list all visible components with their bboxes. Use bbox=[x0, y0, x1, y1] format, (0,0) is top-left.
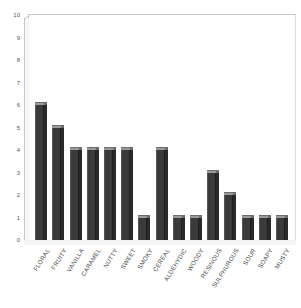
bar-top-face bbox=[87, 147, 96, 150]
bar-front-face bbox=[52, 128, 61, 241]
bar-top-face bbox=[242, 215, 251, 218]
y-axis-tick-label: 7 bbox=[6, 80, 20, 86]
bar-side-face bbox=[61, 128, 64, 241]
bar bbox=[156, 150, 165, 240]
bar-side-face bbox=[199, 218, 202, 241]
bar-top-face bbox=[138, 215, 147, 218]
bar-front-face bbox=[259, 218, 268, 241]
y-axis-tick-label: 4 bbox=[6, 147, 20, 153]
bar-top-side-face bbox=[79, 147, 82, 150]
bar-top-side-face bbox=[44, 102, 47, 105]
y-axis-tick-label: 9 bbox=[6, 35, 20, 41]
bar-front-face bbox=[207, 173, 216, 241]
bar-side-face bbox=[96, 150, 99, 240]
bar-top-side-face bbox=[268, 215, 271, 218]
bar-front-face bbox=[242, 218, 251, 241]
y-axis-tick-label: 3 bbox=[6, 170, 20, 176]
y-axis-tick-label: 5 bbox=[6, 125, 20, 131]
bar-top-side-face bbox=[130, 147, 133, 150]
y-axis-tick-label: 6 bbox=[6, 102, 20, 108]
bar-top-side-face bbox=[216, 170, 219, 173]
bar-side-face bbox=[216, 173, 219, 241]
bar-front-face bbox=[173, 218, 182, 241]
bar-chart: 109876543210 FLORALFRUITYVANILLACARAMELN… bbox=[0, 0, 301, 308]
bar-top-side-face bbox=[96, 147, 99, 150]
y-axis: 109876543210 bbox=[4, 0, 20, 308]
x-axis-tick-label: SOAPY bbox=[256, 247, 274, 270]
bar-front-face bbox=[70, 150, 79, 240]
bar bbox=[104, 150, 113, 240]
bar bbox=[138, 218, 147, 241]
bar-front-face bbox=[138, 218, 147, 241]
bar-top-side-face bbox=[233, 192, 236, 195]
bar-side-face bbox=[130, 150, 133, 240]
x-axis-tick-label: MUSTY bbox=[273, 247, 291, 270]
y-axis-tick-label: 0 bbox=[6, 237, 20, 243]
bar-top-face bbox=[173, 215, 182, 218]
bar-front-face bbox=[104, 150, 113, 240]
x-axis: FLORALFRUITYVANILLACARAMELNUTTYSWEETSMOK… bbox=[24, 245, 301, 308]
bar-top-side-face bbox=[251, 215, 254, 218]
bar-front-face bbox=[224, 195, 233, 240]
bar bbox=[207, 173, 216, 241]
bar-top-face bbox=[156, 147, 165, 150]
bar-top-face bbox=[52, 125, 61, 128]
bar-top-face bbox=[224, 192, 233, 195]
bar-front-face bbox=[156, 150, 165, 240]
bar bbox=[276, 218, 285, 241]
bar-side-face bbox=[79, 150, 82, 240]
bar-side-face bbox=[251, 218, 254, 241]
bar-front-face bbox=[276, 218, 285, 241]
bar bbox=[87, 150, 96, 240]
bar bbox=[70, 150, 79, 240]
y-axis-tick-label: 1 bbox=[6, 215, 20, 221]
bar-side-face bbox=[285, 218, 288, 241]
bar bbox=[190, 218, 199, 241]
bar-top-side-face bbox=[61, 125, 64, 128]
bar-top-side-face bbox=[285, 215, 288, 218]
bar-front-face bbox=[121, 150, 130, 240]
bar-front-face bbox=[190, 218, 199, 241]
x-axis-tick-label: NUTTY bbox=[102, 247, 119, 269]
bar-side-face bbox=[182, 218, 185, 241]
x-axis-tick-label: SWEET bbox=[118, 247, 136, 270]
bar bbox=[52, 128, 61, 241]
bar-side-face bbox=[165, 150, 168, 240]
bar-top-face bbox=[207, 170, 216, 173]
bars-layer bbox=[24, 14, 296, 245]
x-axis-tick-label: FLORAL bbox=[31, 247, 50, 272]
bar-top-face bbox=[121, 147, 130, 150]
bar bbox=[35, 105, 44, 240]
bar bbox=[173, 218, 182, 241]
bar-top-side-face bbox=[199, 215, 202, 218]
bar-top-side-face bbox=[182, 215, 185, 218]
bar-side-face bbox=[44, 105, 47, 240]
bar-top-face bbox=[276, 215, 285, 218]
bar-top-face bbox=[70, 147, 79, 150]
bar bbox=[242, 218, 251, 241]
bar bbox=[259, 218, 268, 241]
y-axis-tick-label: 10 bbox=[6, 12, 20, 18]
y-axis-tick-label: 8 bbox=[6, 57, 20, 63]
bar-front-face bbox=[87, 150, 96, 240]
bar-side-face bbox=[268, 218, 271, 241]
bar-top-side-face bbox=[113, 147, 116, 150]
x-axis-tick-label: SOUR bbox=[241, 247, 257, 267]
bar-side-face bbox=[147, 218, 150, 241]
bar-front-face bbox=[35, 105, 44, 240]
bar-top-face bbox=[259, 215, 268, 218]
bar bbox=[121, 150, 130, 240]
bar-top-face bbox=[35, 102, 44, 105]
bar-top-face bbox=[104, 147, 113, 150]
bar-top-side-face bbox=[147, 215, 150, 218]
bar-side-face bbox=[113, 150, 116, 240]
bar bbox=[224, 195, 233, 240]
bar-top-face bbox=[190, 215, 199, 218]
y-axis-tick-label: 2 bbox=[6, 192, 20, 198]
bar-top-side-face bbox=[165, 147, 168, 150]
bar-side-face bbox=[233, 195, 236, 240]
